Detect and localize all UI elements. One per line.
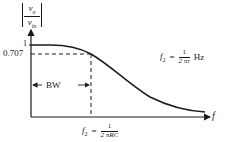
tick-label-1: 1 — [23, 40, 27, 48]
tau-numerator: 1 — [182, 49, 186, 56]
abs-bar-right — [41, 3, 42, 27]
tau-lhs: f2 — [160, 51, 166, 63]
tau-formula: f2 = 1 2 πτ Hz — [160, 48, 204, 66]
cutoff-lhs: f2 — [82, 125, 88, 137]
x-axis-label: f — [212, 111, 215, 121]
bandwidth-label: BW — [46, 81, 61, 90]
tau-equals: = — [170, 52, 175, 62]
y-label-denominator: vin — [28, 17, 37, 29]
cutoff-formula: f2 = 1 2 πRC — [82, 122, 118, 140]
cutoff-denominator: 2 πRC — [101, 132, 119, 139]
y-label-numerator: vo — [29, 4, 36, 16]
tick-label-0707: 0.707 — [3, 49, 23, 58]
y-axis-label: vo vin — [22, 2, 42, 28]
abs-bar-left — [22, 3, 23, 27]
cutoff-equals: = — [92, 126, 97, 136]
tau-denominator: 2 πτ — [179, 58, 190, 65]
tau-unit: Hz — [194, 52, 205, 62]
cutoff-numerator: 1 — [108, 123, 112, 130]
